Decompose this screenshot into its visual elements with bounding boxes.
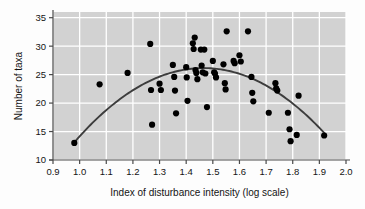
data-point — [248, 74, 254, 80]
data-point — [321, 132, 327, 138]
x-tick-label: 1.3 — [153, 166, 166, 177]
data-point — [210, 58, 216, 64]
data-point — [199, 62, 205, 68]
scatter-plot: 1015202530350.91.01.11.21.31.41.51.61.71… — [0, 0, 365, 209]
data-point — [250, 98, 256, 104]
data-point — [193, 70, 199, 76]
x-tick-label: 1.9 — [313, 166, 326, 177]
data-point — [202, 70, 208, 76]
data-point — [190, 40, 196, 46]
x-tick-label: 1.1 — [100, 166, 113, 177]
data-point — [249, 90, 255, 96]
data-point — [285, 110, 291, 116]
data-point — [171, 74, 177, 80]
plot-panel — [53, 12, 346, 160]
data-point — [71, 140, 77, 146]
y-tick-label: 25 — [35, 69, 46, 80]
data-point — [266, 110, 272, 116]
x-tick-label: 1.7 — [259, 166, 272, 177]
data-point — [223, 86, 229, 92]
y-axis-title: Number of taxa — [13, 51, 24, 120]
data-point — [213, 74, 219, 80]
data-point — [204, 104, 210, 110]
x-tick-label: 1.6 — [233, 166, 246, 177]
data-point — [220, 61, 226, 67]
data-point — [191, 46, 197, 52]
data-point — [222, 80, 228, 86]
data-point — [236, 52, 242, 58]
data-point — [156, 81, 162, 87]
data-point — [183, 64, 189, 70]
y-tick-label: 30 — [35, 41, 46, 52]
data-point — [295, 93, 301, 99]
data-point — [274, 87, 280, 93]
x-tick-label: 1.8 — [286, 166, 299, 177]
x-tick-label: 1.4 — [180, 166, 193, 177]
data-point — [170, 62, 176, 68]
x-tick-label: 1.5 — [206, 166, 219, 177]
data-point — [97, 81, 103, 87]
data-point — [149, 122, 155, 128]
data-point — [173, 110, 179, 116]
data-point — [147, 41, 153, 47]
data-point — [184, 98, 190, 104]
data-point — [294, 132, 300, 138]
data-point — [184, 74, 190, 80]
data-point — [288, 138, 294, 144]
x-tick-label: 0.9 — [46, 166, 59, 177]
data-point — [192, 35, 198, 41]
data-point — [194, 76, 200, 82]
data-point — [148, 87, 154, 93]
y-tick-label: 15 — [35, 126, 46, 137]
y-tick-label: 10 — [35, 154, 46, 165]
y-tick-label: 20 — [35, 97, 46, 108]
data-point — [286, 126, 292, 132]
data-point — [201, 46, 207, 52]
data-point — [232, 60, 238, 66]
x-tick-label: 1.0 — [73, 166, 86, 177]
x-tick-label: 1.2 — [126, 166, 139, 177]
data-point — [124, 70, 130, 76]
y-tick-label: 35 — [35, 12, 46, 23]
data-point — [224, 28, 230, 34]
data-point — [245, 28, 251, 34]
x-axis-title: Index of disturbance intensity (log scal… — [110, 187, 288, 198]
chart-figure: 1015202530350.91.01.11.21.31.41.51.61.71… — [0, 0, 365, 209]
data-point — [172, 87, 178, 93]
data-point — [238, 58, 244, 64]
x-tick-label: 2.0 — [339, 166, 352, 177]
data-point — [158, 87, 164, 93]
